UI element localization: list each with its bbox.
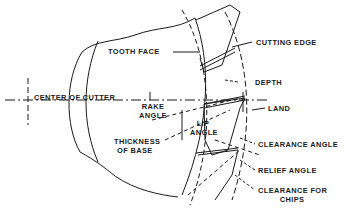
cutter-tooth-diagram: TOOTH FACE CENTER OF CUTTER RAKE ANGLE T… xyxy=(0,0,347,212)
label-clearance-for-chips-2: CHIPS xyxy=(272,196,312,204)
leader-cutting-edge xyxy=(232,42,252,47)
label-thickness-1: THICKNESS xyxy=(114,138,160,146)
label-relief-angle: RELIEF ANGLE xyxy=(258,167,317,175)
cutter-break-line-bottom xyxy=(80,152,178,197)
label-clearance-for-chips-1: CLEARANCE FOR xyxy=(258,187,327,195)
leader-land xyxy=(252,108,265,110)
leader-relief-angle xyxy=(240,160,255,170)
label-rake-angle-2: ANGLE xyxy=(136,112,170,120)
leader-clearance-angle xyxy=(240,138,255,144)
label-cutting-edge: CUTTING EDGE xyxy=(256,39,317,47)
label-thickness-2: OF BASE xyxy=(117,147,153,155)
tooth-top xyxy=(196,5,240,72)
label-depth: DEPTH xyxy=(255,79,282,87)
label-tooth-face: TOOTH FACE xyxy=(108,48,160,56)
label-lip-angle-2: ANGLE xyxy=(188,129,220,137)
label-clearance-angle: CLEARANCE ANGLE xyxy=(258,141,338,149)
face-line-2 xyxy=(200,52,235,70)
tooth-root-arc xyxy=(182,18,206,195)
label-rake-angle-1: RAKE xyxy=(140,103,166,111)
label-lip-angle-1: LIP xyxy=(192,120,214,128)
face-line-1 xyxy=(200,48,235,66)
hub-outer-arc xyxy=(69,52,82,152)
leader-depth xyxy=(225,80,238,82)
label-center-of-cutter: CENTER OF CUTTER xyxy=(34,94,115,102)
leader-chips xyxy=(235,175,255,190)
cutter-drawing xyxy=(0,0,347,212)
outer-circle-dashed xyxy=(225,12,247,200)
label-land: LAND xyxy=(268,105,290,113)
